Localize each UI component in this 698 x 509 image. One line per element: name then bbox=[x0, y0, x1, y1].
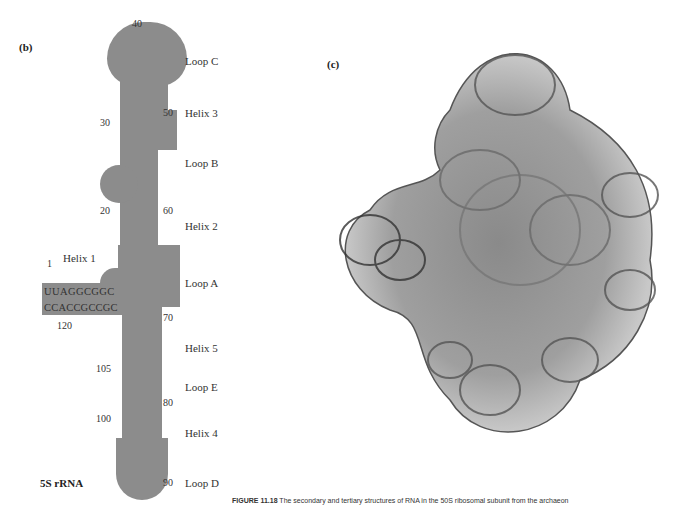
pos-120: 120 bbox=[57, 320, 72, 331]
pos-60: 60 bbox=[163, 205, 173, 216]
ribosome-structure-image bbox=[330, 30, 680, 470]
label-helix-3: Helix 3 bbox=[185, 107, 218, 119]
figure-number: FIGURE 11.18 bbox=[232, 497, 278, 504]
label-loop-a: Loop A bbox=[185, 277, 218, 289]
pos-90: 90 bbox=[163, 477, 173, 488]
label-loop-b: Loop B bbox=[185, 157, 218, 169]
figure-caption: FIGURE 11.18 The secondary and tertiary … bbox=[232, 497, 568, 504]
loop-d-shape bbox=[116, 438, 168, 500]
loop-b-shape bbox=[100, 165, 138, 203]
pos-50: 50 bbox=[163, 107, 173, 118]
label-loop-e: Loop E bbox=[185, 381, 218, 393]
pos-40: 40 bbox=[132, 18, 142, 29]
label-loop-d: Loop D bbox=[185, 477, 219, 489]
label-helix-4: Helix 4 bbox=[185, 427, 218, 439]
loop-c-shape bbox=[107, 22, 187, 86]
helix1-strand-3prime: CCACCGCCGC bbox=[44, 302, 118, 313]
ribosome-illustration bbox=[330, 30, 680, 470]
pos-70: 70 bbox=[163, 312, 173, 323]
helix1-label: Helix 1 bbox=[63, 252, 96, 264]
pos-100: 100 bbox=[96, 413, 111, 424]
pos-20: 20 bbox=[100, 205, 110, 216]
molecule-name: 5S rRNA bbox=[40, 477, 83, 489]
pos-105: 105 bbox=[96, 363, 111, 374]
caption-text: The secondary and tertiary structures of… bbox=[279, 497, 568, 504]
pos-80: 80 bbox=[163, 397, 173, 408]
panel-label-b: (b) bbox=[19, 41, 32, 53]
label-helix-5: Helix 5 bbox=[185, 342, 218, 354]
pos-30: 30 bbox=[100, 117, 110, 128]
helix1-strand-5prime: UUAGGCGGC bbox=[44, 286, 115, 297]
label-helix-2: Helix 2 bbox=[185, 220, 218, 232]
label-loop-c: Loop C bbox=[185, 55, 218, 67]
helix5-shape bbox=[122, 300, 162, 440]
pos-1: 1 bbox=[47, 258, 52, 269]
